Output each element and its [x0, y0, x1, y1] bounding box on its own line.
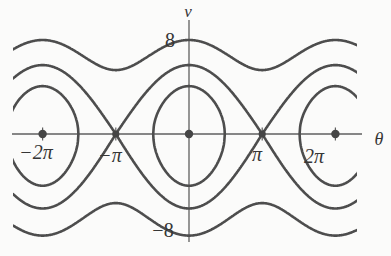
phase-portrait-canvas — [0, 0, 391, 256]
equilibrium-saddle-dot — [259, 130, 266, 137]
x-tick-label-neg-2pi: −2π — [19, 142, 53, 162]
equilibrium-center-dot — [38, 130, 46, 138]
x-tick-label-neg-pi: −π — [98, 145, 122, 165]
x-tick-label-2pi: 2π — [304, 146, 324, 166]
equilibrium-saddle-dot — [112, 130, 119, 137]
y-tick-label-neg-8: −8 — [152, 220, 173, 240]
x-tick-label-pi: π — [252, 144, 262, 164]
equilibrium-center-dot — [331, 130, 339, 138]
x-axis-label: θ — [375, 130, 384, 148]
y-tick-label-8: 8 — [165, 30, 175, 50]
equilibrium-center-dot — [185, 130, 193, 138]
pendulum-phase-portrait-figure: v θ 8 −8 −2π −π π 2π — [0, 0, 391, 256]
y-axis-label: v — [184, 3, 192, 20]
